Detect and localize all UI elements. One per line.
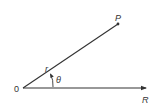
origin-label: 0	[14, 84, 19, 94]
point-p-label: P	[115, 13, 121, 23]
theta-label: θ	[56, 75, 61, 85]
angle-arc-arrow	[51, 74, 54, 87]
axis-r-label: R	[142, 95, 149, 105]
polar-diagram: 0 P r θ R	[0, 0, 158, 112]
radius-label: r	[45, 64, 49, 74]
point-p-dot	[117, 23, 120, 26]
radius-segment	[23, 24, 118, 88]
